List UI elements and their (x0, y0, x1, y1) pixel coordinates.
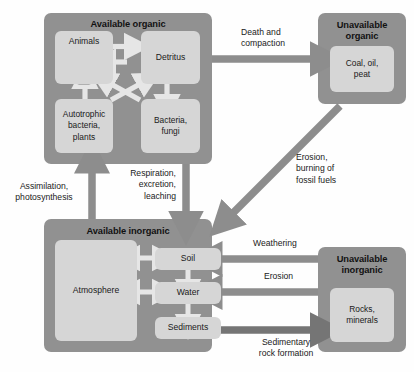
node-autotrophic-bacteria-plants[interactable]: Autotrophic bacteria, plants (55, 99, 113, 153)
nutrient-cycle-diagram: Available organic Unavailable organic Av… (0, 0, 414, 372)
node-bacteria-fungi-label: Bacteria, fungi (154, 115, 187, 137)
node-coal-oil-peat-label: Coal, oil, peat (346, 58, 379, 80)
node-detritus-label: Detritus (156, 52, 186, 63)
label-erosion: Erosion (264, 271, 324, 282)
node-atmosphere[interactable]: Atmosphere (55, 240, 137, 341)
node-animals-label: Animals (55, 36, 113, 47)
node-water-label: Water (177, 287, 200, 298)
label-sedimentary-rock-formation: Sedimentary rock formation (238, 337, 334, 360)
node-soil[interactable]: Soil (155, 248, 221, 270)
node-autotrophic-bacteria-plants-label: Autotrophic bacteria, plants (63, 109, 105, 143)
node-animals[interactable]: Animals (55, 31, 113, 84)
node-coal-oil-peat[interactable]: Coal, oil, peat (330, 46, 394, 92)
node-soil-label: Soil (181, 253, 195, 264)
label-erosion-burning-fossil-fuels: Erosion, burning of fossil fuels (296, 152, 386, 186)
node-atmosphere-label: Atmosphere (73, 285, 119, 296)
node-sediments-label: Sediments (168, 322, 209, 333)
node-bacteria-fungi[interactable]: Bacteria, fungi (141, 99, 200, 153)
label-assimilation-photosynthesis: Assimilation, photosynthesis (1, 181, 87, 204)
node-detritus[interactable]: Detritus (141, 31, 200, 84)
node-rocks-minerals-label: Rocks, minerals (346, 304, 378, 326)
label-death-and-compaction: Death and compaction (241, 27, 315, 50)
label-weathering: Weathering (253, 238, 321, 249)
node-rocks-minerals[interactable]: Rocks, minerals (330, 288, 394, 342)
node-sediments[interactable]: Sediments (155, 317, 221, 339)
node-water[interactable]: Water (155, 282, 221, 304)
label-respiration-excretion-leaching: Respiration, excretion, leaching (108, 168, 176, 202)
